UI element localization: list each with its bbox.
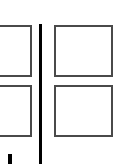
panel-left-bottom — [0, 85, 32, 137]
panel-right-bottom — [54, 85, 113, 137]
panel-right-top — [54, 25, 113, 77]
diagram-canvas — [0, 0, 115, 164]
vertical-divider — [39, 24, 42, 164]
bottom-stub-bar — [8, 154, 12, 164]
panel-left-top — [0, 25, 32, 77]
